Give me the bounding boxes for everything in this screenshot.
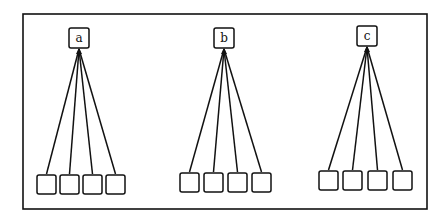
- edge-line: [353, 47, 368, 170]
- edge-line: [329, 47, 368, 170]
- arrow-head-icon: [221, 48, 227, 54]
- edge-line: [79, 49, 93, 174]
- arrow-head-icon: [364, 46, 370, 52]
- tree-diagram: abc: [0, 0, 447, 219]
- child-node: [180, 173, 199, 192]
- child-node: [60, 175, 79, 194]
- edge-line: [224, 49, 238, 172]
- tree-group-a: a: [37, 28, 125, 194]
- child-node: [343, 171, 362, 190]
- root-node-label: c: [364, 29, 371, 43]
- edge-line: [224, 49, 262, 172]
- child-node: [252, 173, 271, 192]
- child-node: [204, 173, 223, 192]
- arrow-head-icon: [76, 48, 82, 54]
- child-node: [83, 175, 102, 194]
- child-node: [368, 171, 387, 190]
- child-node: [106, 175, 125, 194]
- root-node-label: b: [220, 31, 228, 45]
- tree-group-b: b: [180, 28, 271, 192]
- child-node: [228, 173, 247, 192]
- child-node: [393, 171, 412, 190]
- tree-group-c: c: [319, 26, 412, 190]
- child-node: [319, 171, 338, 190]
- edge-line: [79, 49, 116, 174]
- root-node-label: a: [75, 31, 82, 45]
- child-node: [37, 175, 56, 194]
